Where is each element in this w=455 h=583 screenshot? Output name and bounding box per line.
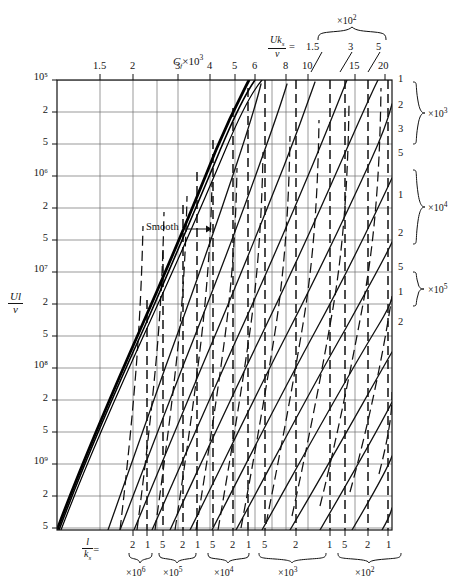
smooth-arrow — [185, 226, 212, 233]
bottom-group-multiplier-5: ×102 — [355, 566, 374, 578]
right-group-multiplier-1: ×103 — [428, 107, 447, 119]
roughness-reynolds-multiplier: ×102 — [337, 14, 356, 26]
roughness-reynolds-brace — [318, 27, 386, 40]
top-tick-2: 2 — [130, 61, 135, 72]
top-tick-8: 8 — [283, 61, 288, 72]
left-tick-1: 2 — [14, 105, 48, 116]
right-tick-g2-3: 5 — [398, 262, 403, 273]
left-tick-5: 5 — [14, 233, 48, 244]
left-tick-0: 10⁵ — [14, 72, 48, 83]
top-tick-3: 3 — [175, 61, 180, 72]
left-tick-12: 10⁹ — [14, 456, 48, 467]
roughness-reynolds-value-3: 5 — [376, 42, 381, 53]
chart-root: Cf×103 1.5 2 3 4 5 6 8 10 15 20 Uks ν = … — [0, 0, 455, 583]
bottom-tick-g2-1: 5 — [160, 540, 165, 551]
left-tick-11: 5 — [14, 425, 48, 436]
right-tick-g2-2: 2 — [398, 228, 403, 239]
bottom-axis-title: l ks = — [82, 537, 99, 562]
right-group-multiplier-3: ×105 — [428, 283, 447, 295]
left-tick-13: 2 — [14, 489, 48, 500]
top-tick-20: 20 — [378, 61, 389, 72]
left-tick-9: 10⁸ — [14, 360, 48, 371]
bottom-tick-g3-2: 2 — [230, 540, 235, 551]
chart-canvas — [0, 0, 455, 583]
bottom-tick-g2-2: 2 — [180, 540, 185, 551]
right-tick-g3-1: 1 — [398, 287, 403, 298]
top-tick-5: 5 — [232, 61, 237, 72]
left-tick-8: 5 — [14, 329, 48, 340]
roughness-reynolds-value-1: 1.5 — [306, 42, 319, 53]
bottom-tick-g5-1: 5 — [342, 540, 347, 551]
plot-frame — [57, 80, 392, 530]
bottom-tick-g4-3: 1 — [327, 540, 332, 551]
top-tick-10: 10 — [302, 61, 313, 72]
top-tick-6: 6 — [252, 61, 257, 72]
right-tick-g1-4: 5 — [398, 148, 403, 159]
left-tick-4: 2 — [14, 201, 48, 212]
left-tick-14: 5 — [14, 521, 48, 532]
right-group-multiplier-2: ×104 — [428, 201, 447, 213]
left-tick-3: 10⁶ — [14, 168, 48, 179]
bottom-group-multiplier-4: ×103 — [278, 566, 297, 578]
left-axis-title: Ul ν — [8, 291, 23, 315]
right-tick-g3-2: 2 — [398, 317, 403, 328]
top-tick-4: 4 — [207, 61, 212, 72]
right-tick-g1-1: 1 — [398, 74, 403, 85]
right-group-braces — [413, 82, 425, 306]
roughness-reynolds-value-2: 3 — [348, 42, 353, 53]
bottom-tick-g3-1: 5 — [210, 540, 215, 551]
left-tick-2: 5 — [14, 137, 48, 148]
fully-rough-vertical-lines — [147, 80, 388, 530]
smooth-plate-curve — [57, 80, 262, 530]
grid-lines — [57, 80, 392, 530]
bottom-tick-g2-3: 1 — [195, 540, 200, 551]
bottom-tick-g1-1: 2 — [130, 540, 135, 551]
smooth-annotation-label: Smooth — [146, 222, 179, 233]
top-tick-15: 15 — [349, 61, 360, 72]
bottom-group-multiplier-1: ×106 — [126, 566, 145, 578]
top-tick-1.5: 1.5 — [93, 61, 106, 72]
left-tick-10: 2 — [14, 393, 48, 404]
roughness-reynolds-leaders — [311, 52, 380, 72]
bottom-tick-g5-2: 2 — [365, 540, 370, 551]
left-tick-6: 10⁷ — [14, 264, 48, 275]
bottom-group-multiplier-3: ×104 — [214, 566, 233, 578]
right-tick-g1-2: 2 — [398, 100, 403, 111]
right-tick-g2-1: 1 — [398, 190, 403, 201]
bottom-tick-g1-2: 1 — [145, 540, 150, 551]
bottom-tick-g4-2: 2 — [293, 540, 298, 551]
bottom-tick-g5-3: 1 — [386, 540, 391, 551]
bottom-tick-g3-3: 1 — [246, 540, 251, 551]
bottom-group-multiplier-2: ×105 — [163, 566, 182, 578]
bottom-tick-g4-1: 5 — [262, 540, 267, 551]
bottom-group-braces — [129, 553, 401, 563]
right-tick-g1-3: 3 — [398, 124, 403, 135]
roughness-reynolds-label: Uks ν = — [268, 35, 295, 60]
